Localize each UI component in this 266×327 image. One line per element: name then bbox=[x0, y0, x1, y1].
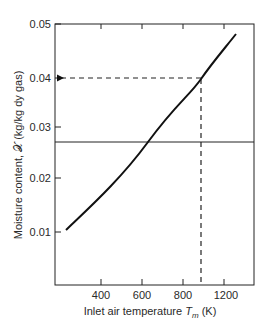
y-axis-label: Moisture content, 𝒳 (kg/kg dy gas) bbox=[12, 71, 24, 240]
x-tick-label: 1200 bbox=[214, 289, 238, 301]
y-tick-label: 0.05 bbox=[30, 18, 51, 30]
x-axis-label-pre: Inlet air temperature bbox=[84, 305, 186, 317]
x-tick-label: 600 bbox=[133, 289, 151, 301]
x-tick-label: 400 bbox=[92, 289, 110, 301]
chart: 0.01 0.02 0.03 0.04 0.05 400 600 800 120… bbox=[0, 0, 266, 327]
x-axis-label: Inlet air temperature Tm (K) bbox=[84, 305, 217, 320]
y-axis-tick-labels: 0.01 0.02 0.03 0.04 0.05 bbox=[30, 18, 51, 238]
plot-frame bbox=[55, 24, 254, 285]
x-axis-label-post: (K) bbox=[199, 305, 217, 317]
x-axis-tick-labels: 400 600 800 1200 bbox=[92, 289, 238, 301]
x-tick-label: 800 bbox=[174, 289, 192, 301]
y-tick-label: 0.03 bbox=[30, 121, 51, 133]
x-axis-ticks bbox=[101, 24, 224, 285]
y-tick-label: 0.02 bbox=[30, 172, 51, 184]
series-line bbox=[66, 34, 236, 230]
y-tick-label: 0.04 bbox=[30, 72, 51, 84]
y-tick-label: 0.01 bbox=[30, 226, 51, 238]
y-axis-ticks bbox=[55, 24, 61, 232]
